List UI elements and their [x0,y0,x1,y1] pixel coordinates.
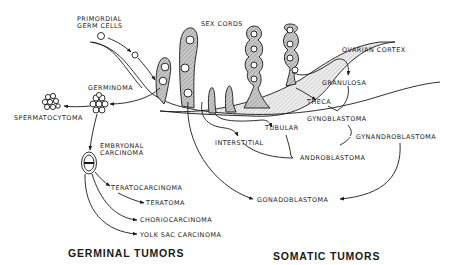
label-germinoma: GERMINOMA [88,84,133,92]
arrow-to-yolk-sac [85,174,137,234]
label-teratoma: TERATOMA [145,199,185,207]
diagram-canvas: PRIMORDIAL GERM CELLS SEX CORDS OVARIAN … [0,0,458,265]
label-carcinoma: CARCINOMA [100,149,144,157]
embryonal-carcinoma-shape [82,152,97,174]
primordial-germ-cells [98,33,156,81]
gonadal-tumor-diagram: PRIMORDIAL GERM CELLS SEX CORDS OVARIAN … [0,0,458,265]
line-tubular-androblastoma [286,135,293,158]
label-tubular: TUBULAR [264,124,299,132]
arrow-to-teratocarcinoma [95,172,110,186]
label-granulosa: GRANULOSA [322,79,367,87]
labels: PRIMORDIAL GERM CELLS SEX CORDS OVARIAN … [14,15,436,239]
germ-cell-1 [98,33,105,40]
sex-cord-stub-2 [225,86,236,112]
label-gonadoblastoma: GONADOBLASTOMA [257,196,329,204]
label-ovarian-cortex: OVARIAN CORTEX [342,46,406,54]
sex-cord-stub-1 [208,88,216,113]
somatic-tumors-title: SOMATIC TUMORS [273,250,380,262]
line-androblastoma-gynandro [340,137,350,145]
label-teratocarcinoma: TERATOCARCINOMA [110,184,183,192]
label-gynoblastoma: GYNOBLASTOMA [307,115,367,123]
germ-cell-track [92,42,142,88]
label-sex-cords: SEX CORDS [201,20,243,28]
label-spermatocytoma: SPERMATOCYTOMA [14,114,83,122]
arrow-to-teratoma [118,193,144,203]
spermatocytoma-cluster [42,93,60,109]
germ-cell-2 [132,52,138,58]
arrow-germinoma-to-embryonal [90,114,97,150]
arrow-gynandro-to-gonadoblastoma [340,143,400,199]
label-yolk-sac: YOLK SAC CARCINOMA [139,231,221,239]
germinal-tumors-title: GERMINAL TUMORS [68,247,184,259]
line-gynoblastoma-gynandro [348,125,351,136]
label-interstitial: INTERSTITIAL [215,139,264,147]
arrow-to-choriocarcinoma [92,174,137,220]
label-theca: THECA [306,98,331,106]
arrow-to-gonadoblastoma [188,102,253,199]
label-gynandroblastoma: GYNANDROBLASTOMA [356,133,436,141]
arrow-to-spermatocytoma [64,106,90,107]
label-androblastoma: ANDROBLASTOMA [300,154,366,162]
label-choriocarcinoma: CHORIOCARCINOMA [140,216,212,224]
label-germ-cells: GERM CELLS [77,22,123,30]
germinoma-cluster [90,93,108,114]
